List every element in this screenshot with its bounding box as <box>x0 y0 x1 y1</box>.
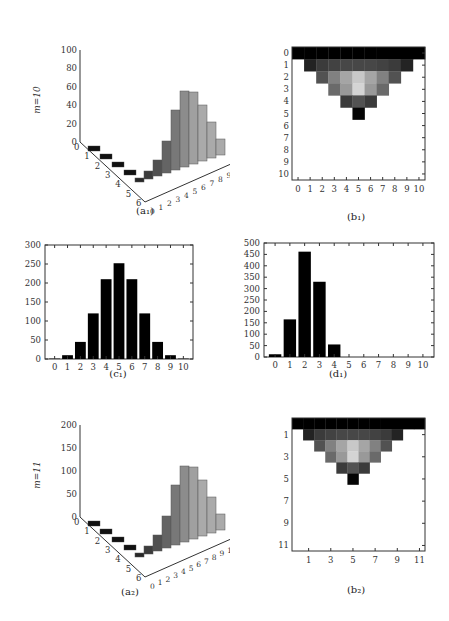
svg-text:2: 2 <box>78 362 83 372</box>
svg-text:8: 8 <box>155 362 160 372</box>
svg-text:1: 1 <box>306 555 311 565</box>
svg-text:3: 3 <box>284 84 289 94</box>
svg-text:50: 50 <box>249 341 260 351</box>
svg-text:0: 0 <box>255 352 260 362</box>
svg-text:3: 3 <box>332 184 337 194</box>
svg-text:150: 150 <box>61 443 77 453</box>
svg-text:20: 20 <box>66 119 77 129</box>
chart-b1: 012345678910012345678910 <box>275 40 435 225</box>
svg-text:1: 1 <box>84 526 89 536</box>
svg-text:2: 2 <box>302 360 307 370</box>
svg-text:4: 4 <box>344 184 349 194</box>
chart-c1: 050100150200250300012345678910 <box>15 222 215 372</box>
svg-text:50: 50 <box>66 489 77 499</box>
svg-text:350: 350 <box>244 272 260 282</box>
svg-text:9: 9 <box>284 518 289 528</box>
svg-text:5: 5 <box>284 474 289 484</box>
chart-a2: m=11050100150200012345601234567891011 <box>30 415 230 600</box>
svg-text:150: 150 <box>244 318 260 328</box>
svg-text:300: 300 <box>244 284 260 294</box>
svg-text:60: 60 <box>66 82 77 92</box>
svg-text:2: 2 <box>95 161 100 171</box>
svg-text:1: 1 <box>65 362 70 372</box>
svg-text:100: 100 <box>244 329 260 339</box>
svg-text:5: 5 <box>193 187 198 196</box>
svg-text:100: 100 <box>61 45 77 55</box>
caption-a2: (a₂) <box>100 586 160 597</box>
chart-b2: 13579111357911 <box>275 405 435 600</box>
svg-text:3: 3 <box>284 452 289 462</box>
svg-text:6: 6 <box>368 184 373 194</box>
svg-text:3: 3 <box>105 170 110 180</box>
svg-text:10: 10 <box>278 169 289 179</box>
svg-text:9: 9 <box>404 184 409 194</box>
svg-text:m=11: m=11 <box>32 461 42 489</box>
svg-text:2: 2 <box>95 536 100 546</box>
svg-text:0: 0 <box>36 354 41 364</box>
svg-text:250: 250 <box>25 259 41 269</box>
svg-text:4: 4 <box>115 554 120 564</box>
svg-text:0: 0 <box>52 362 57 372</box>
svg-text:250: 250 <box>244 295 260 305</box>
svg-text:4: 4 <box>115 179 120 189</box>
svg-text:7: 7 <box>284 496 289 506</box>
svg-text:5: 5 <box>350 555 355 565</box>
svg-text:100: 100 <box>25 316 41 326</box>
svg-text:0: 0 <box>74 517 79 527</box>
svg-text:1: 1 <box>284 60 289 70</box>
svg-text:6: 6 <box>201 183 206 192</box>
svg-text:2: 2 <box>320 184 325 194</box>
caption-d1: (d₁) <box>308 368 368 379</box>
svg-text:9: 9 <box>395 555 400 565</box>
svg-text:9: 9 <box>405 360 410 370</box>
svg-text:0: 0 <box>295 184 300 194</box>
svg-text:1: 1 <box>284 430 289 440</box>
svg-text:5: 5 <box>284 109 289 119</box>
svg-text:6: 6 <box>136 573 141 583</box>
caption-b2: (b₂) <box>326 584 386 595</box>
chart-a1: m=100204060801000123456012345678910 <box>30 40 230 225</box>
svg-text:1: 1 <box>307 184 312 194</box>
svg-text:4: 4 <box>284 96 289 106</box>
svg-text:150: 150 <box>25 297 41 307</box>
svg-text:8: 8 <box>218 175 223 184</box>
svg-text:7: 7 <box>204 557 209 566</box>
svg-text:5: 5 <box>189 564 194 573</box>
svg-text:5: 5 <box>126 189 131 199</box>
svg-text:7: 7 <box>284 133 289 143</box>
svg-text:10: 10 <box>178 362 189 372</box>
svg-text:8: 8 <box>284 145 289 155</box>
svg-text:6: 6 <box>196 560 201 569</box>
svg-text:8: 8 <box>212 553 217 562</box>
svg-text:7: 7 <box>372 555 377 565</box>
svg-text:200: 200 <box>61 420 77 430</box>
svg-text:5: 5 <box>356 184 361 194</box>
svg-text:8: 8 <box>391 360 396 370</box>
svg-text:450: 450 <box>244 249 260 259</box>
caption-a1: (a₁) <box>115 205 175 216</box>
svg-text:40: 40 <box>66 100 77 110</box>
svg-text:100: 100 <box>61 466 77 476</box>
svg-text:1: 1 <box>287 360 292 370</box>
caption-c1: (c₁) <box>88 368 148 379</box>
svg-text:400: 400 <box>244 261 260 271</box>
svg-text:3: 3 <box>176 195 181 204</box>
svg-text:6: 6 <box>284 121 289 131</box>
svg-text:7: 7 <box>380 184 385 194</box>
svg-text:5: 5 <box>126 564 131 574</box>
svg-text:200: 200 <box>244 306 260 316</box>
svg-text:500: 500 <box>244 238 260 248</box>
svg-text:200: 200 <box>25 278 41 288</box>
svg-text:0: 0 <box>272 360 277 370</box>
svg-text:9: 9 <box>168 362 173 372</box>
chart-d1: 0501001502002503003504004505000123456789… <box>230 220 440 372</box>
svg-text:11: 11 <box>414 555 425 565</box>
svg-text:7: 7 <box>376 360 381 370</box>
svg-text:m=10: m=10 <box>32 86 42 114</box>
svg-text:9: 9 <box>227 171 231 180</box>
svg-text:9: 9 <box>284 157 289 167</box>
svg-text:11: 11 <box>278 540 289 550</box>
svg-text:0: 0 <box>284 48 289 58</box>
svg-text:8: 8 <box>392 184 397 194</box>
svg-text:10: 10 <box>227 546 230 555</box>
